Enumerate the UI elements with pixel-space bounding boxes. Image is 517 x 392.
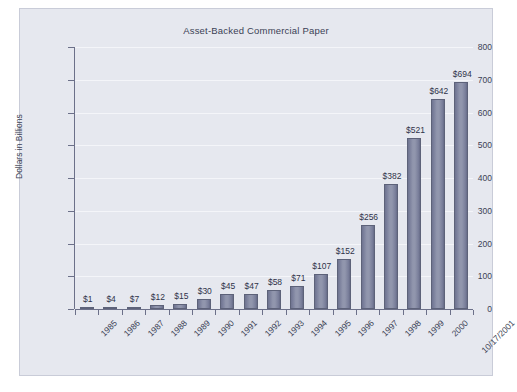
y-tick-mark [68,47,74,48]
bar[interactable] [454,82,468,309]
bar-value-label: $15 [174,291,188,301]
x-tick-label: 1998 [403,318,423,338]
x-tick-label: 1990 [215,318,235,338]
bar-value-label: $58 [268,277,282,287]
x-tick-label: 10/17/2001 [480,318,517,355]
bar[interactable] [150,305,164,309]
bar[interactable] [220,294,234,309]
gridline [75,47,473,48]
bar-value-label: $47 [244,281,258,291]
bar-value-label: $382 [383,171,402,181]
x-tick-label: 1988 [168,318,188,338]
bar[interactable] [103,307,117,309]
bar-value-label: $30 [198,286,212,296]
x-tick-mark [192,310,193,315]
gridline [75,80,473,81]
x-tick-mark [286,310,287,315]
bar[interactable] [337,259,351,309]
x-tick-mark [356,310,357,315]
y-tick-mark [68,211,74,212]
bar-value-label: $71 [291,273,305,283]
bar[interactable] [314,274,328,309]
bar-value-label: $12 [151,292,165,302]
chart-figure: Asset-Backed Commercial Paper Dollars in… [19,8,493,376]
x-tick-mark [426,310,427,315]
bar[interactable] [127,307,141,309]
bar[interactable] [173,304,187,309]
bar-value-label: $7 [130,294,139,304]
bar-value-label: $642 [429,86,448,96]
x-tick-mark [262,310,263,315]
y-tick-mark [68,276,74,277]
x-tick-label: 1991 [239,318,259,338]
bar[interactable] [384,184,398,309]
x-tick-label: 1995 [332,318,352,338]
x-tick-label: 1992 [262,318,282,338]
bar[interactable] [197,299,211,309]
x-tick-mark [333,310,334,315]
bar-value-label: $694 [453,69,472,79]
bar-value-label: $256 [359,212,378,222]
bar[interactable] [407,138,421,309]
bar-value-label: $107 [312,261,331,271]
x-tick-label: 1994 [309,318,329,338]
bar[interactable] [431,99,445,309]
x-tick-label: 2000 [449,318,469,338]
x-tick-mark [98,310,99,315]
y-tick-mark [68,309,74,310]
x-tick-mark [169,310,170,315]
x-tick-label: 1989 [192,318,212,338]
bar[interactable] [244,294,258,309]
y-tick-mark [68,80,74,81]
bar[interactable] [80,307,94,309]
x-tick-mark [122,310,123,315]
bar-value-label: $152 [336,246,355,256]
y-tick-mark [68,244,74,245]
y-tick-mark [68,145,74,146]
x-tick-label: 1999 [426,318,446,338]
x-tick-label: 1985 [98,318,118,338]
chart-title: Asset-Backed Commercial Paper [20,25,492,36]
plot-area: $1$4$7$12$15$30$45$47$58$71$107$152$256$… [75,47,473,309]
bar-value-label: $4 [106,294,115,304]
x-tick-label: 1997 [379,318,399,338]
y-tick-mark [68,178,74,179]
x-tick-mark [145,310,146,315]
bar[interactable] [361,225,375,309]
x-tick-label: 1996 [356,318,376,338]
bar[interactable] [290,286,304,309]
x-tick-label: 1987 [145,318,165,338]
x-tick-label: 1993 [286,318,306,338]
x-tick-mark [379,310,380,315]
gridline [75,113,473,114]
bar-value-label: $1 [83,294,92,304]
x-tick-mark [403,310,404,315]
bar-value-label: $45 [221,281,235,291]
x-tick-mark [239,310,240,315]
x-tick-label: 1986 [122,318,142,338]
x-tick-mark [75,310,76,315]
x-tick-mark [450,310,451,315]
x-axis-line [75,309,473,310]
y-tick-mark [68,113,74,114]
x-tick-mark [309,310,310,315]
bar[interactable] [267,290,281,309]
x-tick-mark [473,310,474,315]
bar-value-label: $521 [406,125,425,135]
x-tick-mark [215,310,216,315]
y-axis-title: Dollars in Billions [14,114,24,179]
